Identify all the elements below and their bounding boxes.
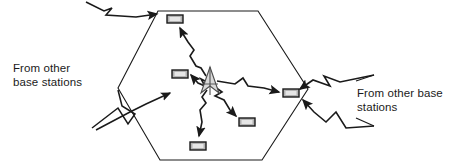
signal-path-to-mobile-bottom [199, 90, 207, 136]
mobile-unit-right [283, 89, 299, 97]
label-from-other-base-stations-right: From other base stations [357, 86, 443, 114]
label-from-other-base-stations-left: From other base stations [13, 61, 82, 89]
signal-path-to-mobile-right [217, 78, 279, 92]
signal-path-to-mobile-top [180, 28, 206, 76]
external-signal-top-left [86, 2, 157, 17]
mobile-unit-left [172, 70, 188, 78]
cellular-coverage-figure: From other base stations From other base… [0, 0, 467, 167]
mobile-unit-top [167, 15, 183, 23]
mobile-unit-lower-right [239, 118, 255, 126]
mobile-unit-bottom [190, 142, 206, 150]
